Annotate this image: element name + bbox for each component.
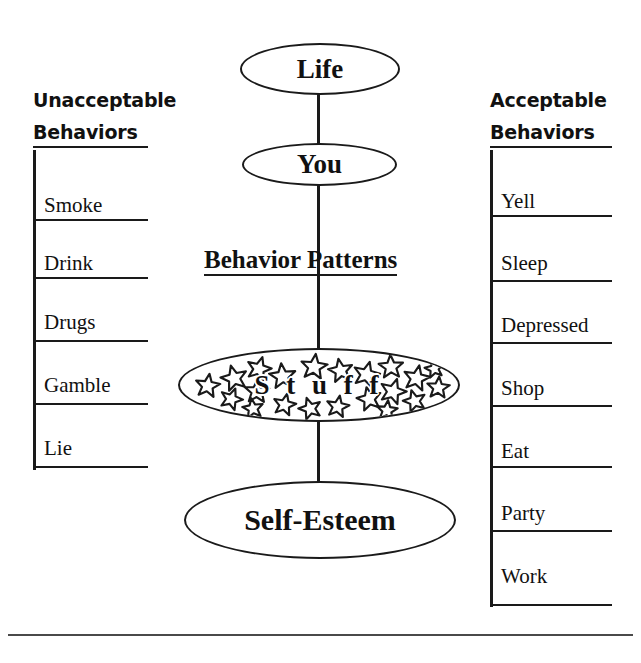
acceptable-rule-2: [490, 280, 612, 282]
acceptable-rule-6: [490, 530, 612, 532]
acceptable-rule-7: [490, 604, 612, 606]
footer-divider: [8, 634, 633, 636]
acceptable-bracket-spine: [490, 150, 493, 607]
behavior-diagram: Unacceptable Behaviors Smoke Drink Drugs…: [0, 0, 641, 663]
oval-self-esteem-label: Self-Esteem: [244, 503, 396, 537]
behavior-patterns-label: Behavior Patterns: [204, 246, 397, 276]
oval-life-label: Life: [297, 54, 344, 85]
acceptable-item-work: Work: [501, 565, 547, 587]
connector-stuff-to-self-esteem: [317, 420, 320, 483]
acceptable-item-party: Party: [501, 502, 545, 524]
acceptable-item-eat: Eat: [501, 440, 529, 462]
acceptable-item-yell: Yell: [501, 190, 535, 212]
oval-stuff-label: S t u f f: [254, 370, 383, 401]
connector-life-to-you: [317, 93, 320, 146]
oval-life: Life: [240, 43, 400, 95]
acceptable-rule-1: [490, 215, 612, 217]
acceptable-behaviors-column: Acceptable Behaviors Yell Sleep Depresse…: [441, 0, 641, 663]
acceptable-item-depressed: Depressed: [501, 314, 588, 336]
acceptable-item-sleep: Sleep: [501, 252, 548, 274]
acceptable-rule-3: [490, 342, 612, 344]
acceptable-heading-line2: Behaviors: [490, 120, 612, 148]
acceptable-item-shop: Shop: [501, 377, 544, 399]
acceptable-rule-4: [490, 405, 612, 407]
acceptable-heading-line1: Acceptable: [490, 88, 607, 113]
oval-stuff: S t u f f: [178, 348, 460, 422]
oval-you-label: You: [297, 149, 342, 180]
oval-you: You: [242, 143, 397, 186]
acceptable-rule-5: [490, 466, 612, 468]
oval-self-esteem: Self-Esteem: [184, 481, 456, 559]
